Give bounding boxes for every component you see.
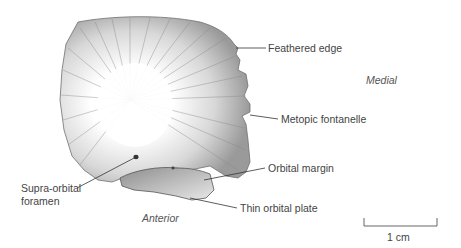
label-metopic-fontanelle: Metopic fontanelle (281, 113, 366, 125)
leader-thin-orbital-plate (190, 198, 237, 208)
label-thin-orbital-plate: Thin orbital plate (240, 202, 318, 214)
diagram-stage: Feathered edge Metopic fontanelle Orbita… (0, 0, 461, 248)
scale-bar-line (364, 218, 437, 226)
orientation-medial: Medial (366, 74, 397, 86)
label-supra-orbital-line1: Supra-orbital (21, 182, 81, 194)
label-feathered-edge: Feathered edge (268, 42, 342, 54)
orbital-plate (120, 167, 214, 200)
leader-metopic-fontanelle (250, 115, 278, 119)
orientation-anterior: Anterior (142, 212, 179, 224)
label-supra-orbital-line2: foramen (21, 195, 60, 207)
label-orbital-margin: Orbital margin (268, 162, 334, 174)
scale-bar-label: 1 cm (387, 231, 410, 243)
bone-illustration (0, 0, 461, 248)
